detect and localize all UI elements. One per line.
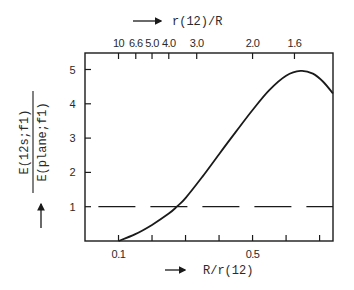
top-axis-title: r(12)/R xyxy=(172,15,222,29)
x-axis-ticks: 0.10.5 xyxy=(112,235,320,260)
y-tick-label: 2 xyxy=(69,166,75,178)
top-tick-label: 3.0 xyxy=(190,37,204,49)
top-tick-label: 2.0 xyxy=(246,37,260,49)
top-tick-label: 5.0 xyxy=(145,37,159,49)
top-axis-ticks: 106.65.04.03.02.01.6 xyxy=(113,37,302,59)
top-tick-label: 1.6 xyxy=(288,37,302,49)
y-tick-label: 5 xyxy=(69,64,75,76)
plot-series xyxy=(98,71,333,241)
top-tick-label: 4.0 xyxy=(162,37,176,49)
top-tick-label: 10 xyxy=(113,37,125,49)
y-tick-label: 4 xyxy=(69,98,75,110)
y-tick-label: 3 xyxy=(69,132,75,144)
x-tick-label: 0.5 xyxy=(246,248,260,260)
x-tick-label: 0.1 xyxy=(112,248,126,260)
bottom-axis-title: R/r(12) xyxy=(203,264,253,278)
y-axis-ticks: 12345 xyxy=(69,64,91,213)
y-axis-title: E(12s;f1) E(plane;f1) xyxy=(18,91,50,193)
top-tick-label: 6.6 xyxy=(129,37,143,49)
main-curve xyxy=(119,71,334,241)
y-axis-numerator: E(12s;f1) xyxy=(18,110,32,175)
plot-frame xyxy=(85,53,333,241)
y-tick-label: 1 xyxy=(69,201,75,213)
chart: 12345 0.10.5 106.65.04.03.02.01.6 r(12)/… xyxy=(0,0,354,290)
y-axis-denominator: E(plane;f1) xyxy=(36,102,50,181)
